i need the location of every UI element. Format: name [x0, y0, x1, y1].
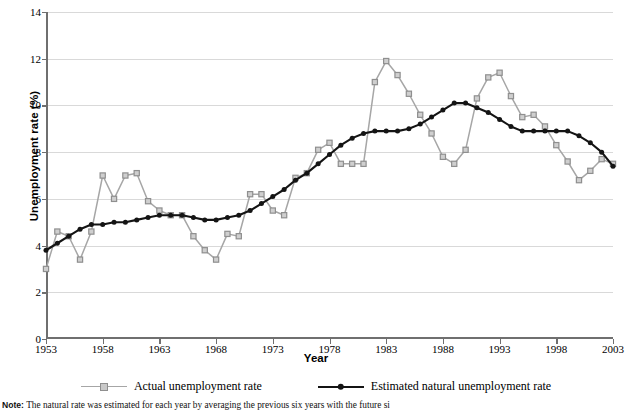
- data-point: [282, 187, 287, 192]
- data-point: [463, 147, 468, 152]
- chart-legend: Actual unemployment rate Estimated natur…: [0, 379, 632, 394]
- x-tick-mark: [46, 339, 47, 344]
- data-point: [316, 161, 321, 166]
- note-text: The natural rate was estimated for each …: [26, 400, 390, 410]
- x-tick-mark: [500, 339, 501, 344]
- data-point: [554, 129, 559, 134]
- data-point: [327, 140, 332, 145]
- data-point: [259, 201, 264, 206]
- x-tick-mark: [330, 339, 331, 344]
- data-point: [248, 208, 253, 213]
- data-point: [293, 178, 298, 183]
- x-tick-mark: [613, 339, 614, 344]
- legend-swatch-natural: [318, 382, 364, 392]
- data-point: [474, 96, 479, 101]
- plot-area: 02468101214 1953195819631968197319781983…: [46, 12, 613, 339]
- legend-label-actual: Actual unemployment rate: [134, 379, 262, 394]
- data-point: [350, 161, 355, 166]
- legend-item-actual: Actual unemployment rate: [81, 379, 262, 394]
- x-tick-mark: [103, 339, 104, 344]
- data-point: [384, 129, 389, 134]
- data-point: [497, 70, 502, 75]
- data-point: [599, 150, 604, 155]
- data-point: [100, 222, 105, 227]
- data-point: [89, 229, 94, 234]
- data-point: [395, 129, 400, 134]
- data-point: [202, 217, 207, 222]
- data-point: [282, 213, 287, 218]
- data-point: [452, 101, 457, 106]
- series-line: [46, 61, 613, 269]
- data-point: [55, 229, 60, 234]
- data-point: [440, 108, 445, 113]
- x-tick-mark: [273, 339, 274, 344]
- data-point: [531, 129, 536, 134]
- data-point: [77, 257, 82, 262]
- data-point: [542, 129, 547, 134]
- data-point: [542, 124, 547, 129]
- data-point: [611, 164, 616, 169]
- y-tick-label: 2: [36, 286, 42, 298]
- y-tick-label: 14: [30, 6, 41, 18]
- data-point: [123, 220, 128, 225]
- data-point: [270, 208, 275, 213]
- data-point: [497, 117, 502, 122]
- data-point: [463, 101, 468, 106]
- data-point: [486, 110, 491, 115]
- chart-note: Note: The natural rate was estimated for…: [2, 400, 632, 410]
- data-point: [520, 115, 525, 120]
- data-point: [316, 147, 321, 152]
- data-point: [112, 220, 117, 225]
- data-point: [304, 171, 309, 176]
- data-point: [429, 115, 434, 120]
- series-line: [46, 103, 613, 250]
- data-point: [134, 171, 139, 176]
- note-prefix: Note:: [2, 400, 24, 410]
- data-point: [361, 131, 366, 136]
- data-point: [372, 129, 377, 134]
- data-point: [406, 91, 411, 96]
- data-point: [191, 234, 196, 239]
- legend-label-natural: Estimated natural unemployment rate: [371, 379, 551, 394]
- y-tick-label: 10: [30, 99, 41, 111]
- y-tick-label: 6: [36, 193, 42, 205]
- data-point: [520, 129, 525, 134]
- data-point: [225, 231, 230, 236]
- data-point: [588, 168, 593, 173]
- x-axis-title: Year: [0, 352, 632, 364]
- data-series-layer: [46, 12, 613, 339]
- data-point: [157, 208, 162, 213]
- data-point: [111, 196, 116, 201]
- data-point: [66, 234, 71, 239]
- y-tick-label: 4: [36, 240, 42, 252]
- data-point: [191, 215, 196, 220]
- x-tick-mark: [443, 339, 444, 344]
- x-tick-mark: [216, 339, 217, 344]
- data-point: [134, 217, 139, 222]
- data-point: [565, 159, 570, 164]
- legend-swatch-actual: [81, 382, 127, 392]
- data-point: [55, 241, 60, 246]
- data-point: [248, 192, 253, 197]
- data-point: [44, 248, 49, 253]
- data-point: [440, 154, 445, 159]
- x-tick-mark: [159, 339, 160, 344]
- data-point: [395, 72, 400, 77]
- data-point: [452, 161, 457, 166]
- data-point: [78, 227, 83, 232]
- data-point: [214, 217, 219, 222]
- data-point: [372, 79, 377, 84]
- data-point: [225, 215, 230, 220]
- data-point: [236, 234, 241, 239]
- chart-figure: Unemployment rate (%) 02468101214 195319…: [0, 0, 632, 411]
- data-point: [384, 58, 389, 63]
- data-point: [350, 136, 355, 141]
- x-tick-mark: [386, 339, 387, 344]
- data-point: [361, 161, 366, 166]
- data-point: [145, 199, 150, 204]
- data-point: [474, 105, 479, 110]
- data-point: [259, 192, 264, 197]
- data-point: [429, 131, 434, 136]
- data-point: [180, 213, 185, 218]
- data-point: [338, 143, 343, 148]
